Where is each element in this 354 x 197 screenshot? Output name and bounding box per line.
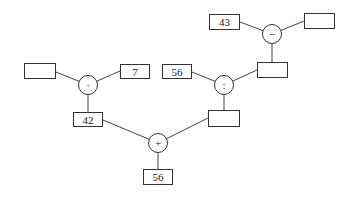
sub-right-input-box[interactable]: [304, 13, 335, 29]
divide-operator: :: [214, 75, 234, 95]
sub-left-box: 43: [209, 14, 240, 30]
div-result-input-box[interactable]: [208, 110, 240, 127]
add-operator: +: [148, 133, 168, 153]
subtract-operator: −: [262, 24, 282, 44]
mult-left-input-box[interactable]: [24, 63, 56, 79]
mult-right-box: 7: [120, 64, 150, 79]
div-left-box: 56: [162, 64, 192, 79]
add-result-box: 56: [143, 169, 173, 185]
div-right-input-box[interactable]: [257, 62, 288, 78]
connector-lines: [0, 0, 354, 197]
mult-result-box: 42: [73, 112, 103, 127]
multiply-operator: ·: [78, 75, 98, 95]
